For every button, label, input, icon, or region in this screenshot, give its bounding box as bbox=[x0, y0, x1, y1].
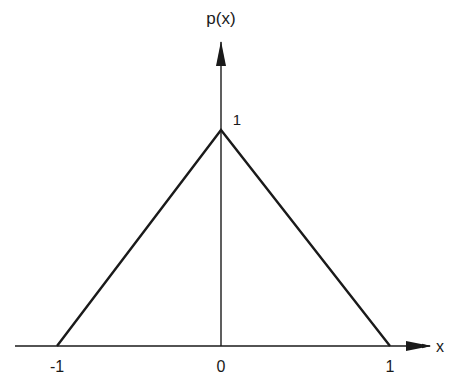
triangle-function-curve bbox=[57, 130, 390, 346]
x-tick-label-neg1: -1 bbox=[50, 358, 64, 375]
y-axis-label: p(x) bbox=[206, 9, 235, 28]
x-axis-label: x bbox=[436, 338, 444, 355]
x-tick-label-0: 0 bbox=[217, 358, 226, 375]
peak-value-label: 1 bbox=[233, 111, 241, 128]
y-axis-arrowhead-icon bbox=[216, 41, 226, 66]
x-axis-arrowhead-icon bbox=[406, 341, 431, 351]
x-tick-label-1: 1 bbox=[386, 358, 395, 375]
triangular-pdf-diagram: p(x) 1 -1 0 1 x bbox=[0, 0, 456, 381]
